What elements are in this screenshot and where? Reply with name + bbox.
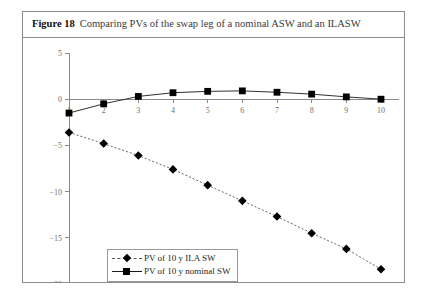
figure-container: Figure 18Comparing PVs of the swap leg o… xyxy=(22,11,405,283)
chart-legend: PV of 10 y ILA SW PV of 10 y nominal SW xyxy=(107,249,238,282)
y-tick-label: 0 xyxy=(58,95,62,104)
y-tick-label: 5 xyxy=(58,49,62,58)
legend-key-square-icon xyxy=(112,266,142,277)
figure-title: Comparing PVs of the swap leg of a nomin… xyxy=(80,18,361,29)
data-point-marker xyxy=(274,89,281,96)
data-point-marker xyxy=(239,87,246,94)
data-point-marker xyxy=(100,100,107,107)
data-point-marker xyxy=(169,165,178,174)
x-tick-label: 10 xyxy=(377,106,385,115)
data-point-marker xyxy=(65,128,74,137)
y-tick-label: −10 xyxy=(49,188,62,197)
chart-plot-area: 50−5−10−15−2012345678910 xyxy=(23,38,406,283)
data-point-marker xyxy=(307,229,316,238)
x-tick-label: 2 xyxy=(102,106,106,115)
data-point-marker xyxy=(170,89,177,96)
x-tick-label: 8 xyxy=(310,106,314,115)
data-point-marker xyxy=(134,151,143,160)
data-point-marker xyxy=(203,181,212,190)
x-tick-label: 5 xyxy=(206,106,210,115)
line-chart: 50−5−10−15−2012345678910 xyxy=(23,38,406,283)
x-tick-label: 4 xyxy=(171,106,175,115)
data-point-marker xyxy=(135,93,142,100)
legend-key-diamond-icon xyxy=(112,253,142,264)
legend-label-nominal-sw: PV of 10 y nominal SW xyxy=(144,266,231,277)
series-line xyxy=(69,91,381,113)
data-point-marker xyxy=(273,212,282,221)
x-tick-label: 9 xyxy=(344,106,348,115)
y-tick-label: −15 xyxy=(49,234,62,243)
data-point-marker xyxy=(342,245,351,254)
x-tick-label: 7 xyxy=(275,106,279,115)
figure-label: Figure 18 xyxy=(32,18,75,29)
x-tick-label: 6 xyxy=(240,106,244,115)
data-point-marker xyxy=(238,197,247,206)
legend-item-ila-sw: PV of 10 y ILA SW xyxy=(112,252,231,265)
data-point-marker xyxy=(204,88,211,95)
y-tick-label: −5 xyxy=(53,141,62,150)
figure-caption: Figure 18Comparing PVs of the swap leg o… xyxy=(23,12,404,38)
legend-item-nominal-sw: PV of 10 y nominal SW xyxy=(112,265,231,278)
y-tick-label: −20 xyxy=(49,280,62,283)
data-point-marker xyxy=(308,91,315,98)
data-point-marker xyxy=(378,96,385,103)
x-tick-label: 3 xyxy=(136,106,140,115)
data-point-marker xyxy=(343,93,350,100)
data-point-marker xyxy=(66,110,73,117)
data-point-marker xyxy=(99,139,108,148)
legend-label-ila-sw: PV of 10 y ILA SW xyxy=(144,253,216,264)
data-point-marker xyxy=(377,265,386,274)
